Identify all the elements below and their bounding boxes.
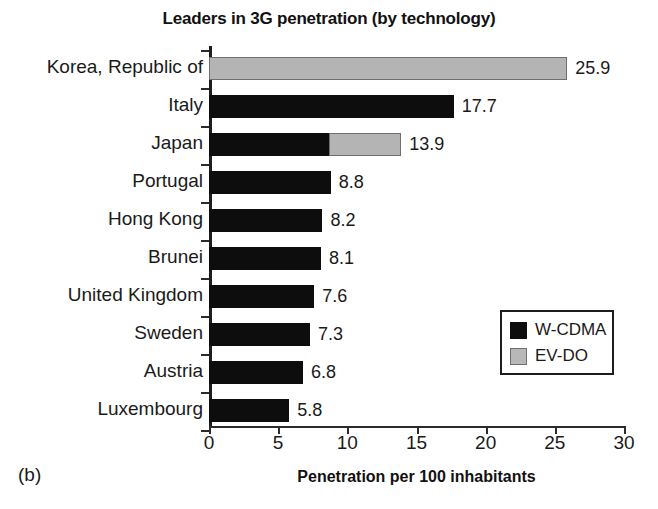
y-axis-tick (201, 202, 209, 204)
x-axis-tick-label: 30 (604, 432, 644, 454)
bar-value-label: 8.1 (329, 248, 354, 269)
y-axis-tick (201, 50, 209, 52)
category-label: Japan (0, 132, 203, 154)
category-label: Korea, Republic of (0, 56, 203, 78)
x-axis-tick-label: 15 (397, 432, 437, 454)
bar-value-label: 6.8 (311, 362, 336, 383)
y-axis-tick (201, 392, 209, 394)
bar-row: 8.1 (209, 247, 629, 270)
legend-entry: W-CDMA (510, 319, 606, 341)
chart-legend: W-CDMAEV-DO (500, 310, 614, 375)
legend-label: EV-DO (535, 346, 588, 366)
bar-row: 7.6 (209, 285, 629, 308)
y-axis-tick (201, 278, 209, 280)
bar-value-label: 8.8 (339, 172, 364, 193)
y-axis-tick (201, 240, 209, 242)
bar-value-label: 7.3 (318, 324, 343, 345)
bar-segment-w-cdma (209, 133, 329, 156)
bar-segment-ev-do (329, 133, 401, 156)
category-label: United Kingdom (0, 284, 203, 306)
bar-segment-w-cdma (209, 95, 454, 118)
y-axis-tick (201, 316, 209, 318)
bar-row: 8.8 (209, 171, 629, 194)
x-axis-tick-label: 25 (535, 432, 575, 454)
category-label: Italy (0, 94, 203, 116)
bar-segment-w-cdma (209, 171, 331, 194)
bar-segment-w-cdma (209, 209, 322, 232)
bar-segment-w-cdma (209, 323, 310, 346)
x-axis-tick-label: 10 (327, 432, 367, 454)
category-label: Luxembourg (0, 398, 203, 420)
x-axis-tick-label: 20 (466, 432, 506, 454)
bar-segment-w-cdma (209, 247, 321, 270)
category-label: Hong Kong (0, 208, 203, 230)
bar-value-label: 7.6 (322, 286, 347, 307)
chart-figure: Leaders in 3G penetration (by technology… (0, 0, 658, 509)
category-label: Portugal (0, 170, 203, 192)
y-axis-tick (201, 354, 209, 356)
category-label: Brunei (0, 246, 203, 268)
chart-title: Leaders in 3G penetration (by technology… (0, 9, 658, 29)
bar-row: 17.7 (209, 95, 629, 118)
bar-value-label: 17.7 (462, 96, 497, 117)
panel-label: (b) (18, 464, 41, 486)
legend-label: W-CDMA (535, 320, 606, 340)
x-axis-title: Penetration per 100 inhabitants (209, 468, 624, 486)
bar-value-label: 8.2 (330, 210, 355, 231)
bar-value-label: 5.8 (297, 400, 322, 421)
y-axis-tick (201, 88, 209, 90)
x-axis-tick-label: 5 (258, 432, 298, 454)
legend-swatch-black-icon (510, 322, 527, 339)
legend-entry: EV-DO (510, 345, 588, 367)
bar-segment-w-cdma (209, 285, 314, 308)
bar-row: 13.9 (209, 133, 629, 156)
bar-row: 5.8 (209, 399, 629, 422)
category-label: Sweden (0, 322, 203, 344)
bar-row: 8.2 (209, 209, 629, 232)
bar-row: 25.9 (209, 57, 629, 80)
bar-segment-ev-do (209, 57, 567, 80)
legend-swatch-gray-icon (510, 348, 527, 365)
y-axis-tick (201, 126, 209, 128)
y-axis-tick (201, 164, 209, 166)
bar-segment-w-cdma (209, 361, 303, 384)
bar-value-label: 13.9 (409, 134, 444, 155)
bar-value-label: 25.9 (575, 58, 610, 79)
category-label: Austria (0, 360, 203, 382)
bar-segment-w-cdma (209, 399, 289, 422)
x-axis-tick-label: 0 (189, 432, 229, 454)
